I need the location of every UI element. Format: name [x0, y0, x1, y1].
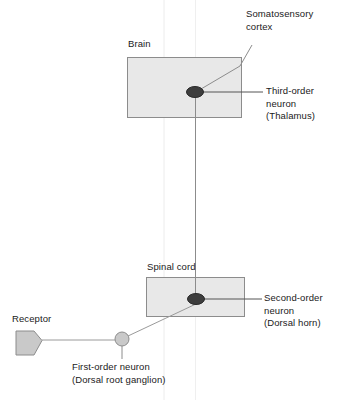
connector-somatosensory-cortex-leader: [240, 45, 252, 66]
diagram-canvas: [0, 0, 341, 400]
first-order-neuron-soma: [115, 332, 129, 346]
third-order-neuron-label: Third-order neuron (Thalamus): [266, 85, 315, 123]
somatosensory-cortex-label: Somatosensory cortex: [246, 8, 313, 33]
somatosensory-pathway-diagram: Brain Spinal cord Receptor Somatosensory…: [0, 0, 341, 400]
third-order-neuron-soma: [187, 87, 204, 98]
second-order-neuron-soma: [188, 294, 205, 305]
second-order-neuron-label: Second-order neuron (Dorsal horn): [264, 292, 323, 330]
first-order-neuron-label: First-order neuron (Dorsal root ganglion…: [72, 361, 166, 386]
receptor-shape: [16, 331, 42, 355]
brain-box: [128, 58, 242, 118]
spinal-cord-label: Spinal cord: [147, 261, 196, 274]
receptor-label: Receptor: [12, 313, 51, 326]
brain-label: Brain: [128, 38, 151, 51]
